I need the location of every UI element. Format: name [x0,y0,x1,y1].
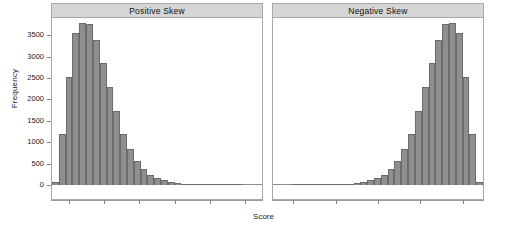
y-tick-label: 3500 [0,30,44,40]
bar-series-negative-skew [273,18,483,185]
histogram-bar [93,40,100,185]
y-tick-label: 3000 [0,52,44,62]
histogram-bar [313,184,320,185]
x-tick-mark [175,200,176,204]
histogram-bar [236,184,243,185]
histogram-bar [120,134,127,185]
histogram-bar [202,184,209,185]
y-tick-label: 2000 [0,94,44,104]
histogram-bar [168,182,175,185]
histogram-bar [154,178,161,185]
x-axis-positive-skew [51,200,263,208]
histogram-bar [381,175,388,185]
histogram-bar [72,33,79,185]
histogram-bar [415,111,422,185]
histogram-bar [320,184,327,185]
strip-title: Positive Skew [129,6,185,16]
y-tick-label: 2500 [0,73,44,83]
histogram-bar [161,180,168,185]
histogram-bar [388,169,395,185]
x-tick-mark [420,200,421,204]
histogram-bar [408,134,415,185]
histogram-bar [374,178,381,185]
histogram-bar [326,184,333,185]
histogram-bar [449,23,456,185]
histogram-bar [394,161,401,185]
x-tick-mark [210,200,211,204]
histogram-bar [340,184,347,185]
x-axis-line [51,200,263,201]
y-tick-label: 1500 [0,116,44,126]
histogram-bar [134,161,141,185]
x-axis-label: Score [0,212,527,221]
x-tick-mark [69,200,70,204]
histogram-bar [306,184,313,185]
histogram-bar [333,184,340,185]
histogram-bar [367,180,374,185]
histogram-bar [292,184,299,185]
histogram-bar [66,77,73,185]
histogram-bar [113,111,120,185]
x-tick-mark [104,200,105,204]
histogram-bar [442,24,449,185]
x-tick-mark [336,200,337,204]
x-tick-mark [293,200,294,204]
histogram-bar [463,77,470,185]
y-tick-label: 1000 [0,137,44,147]
histogram-bar [456,33,463,185]
x-tick-mark [245,200,246,204]
histogram-figure: Frequency 0500100015002000250030003500 P… [0,0,527,241]
histogram-bar [476,182,483,185]
histogram-bar [175,183,182,185]
x-tick-mark [463,200,464,204]
histogram-bar [299,184,306,185]
histogram-bar [86,24,93,185]
histogram-bar [188,184,195,185]
histogram-bar [107,87,114,185]
histogram-bar [222,184,229,185]
histogram-bar [147,175,154,185]
plot-area-negative-skew [273,18,483,199]
strip-title: Negative Skew [348,6,407,16]
histogram-bar [401,149,408,185]
strip-header-negative-skew: Negative Skew [273,4,483,18]
plot-area-positive-skew [52,18,262,199]
histogram-bar [100,63,107,185]
y-tick-label: 0 [0,180,44,190]
histogram-bar [181,184,188,185]
histogram-bar [127,149,134,185]
histogram-bar [59,134,66,185]
histogram-bar [209,184,216,185]
histogram-bar [435,40,442,185]
histogram-bar [141,169,148,185]
panel-positive-skew: Positive Skew [51,3,263,200]
histogram-bar [216,184,223,185]
strip-header-positive-skew: Positive Skew [52,4,262,18]
x-tick-mark [139,200,140,204]
histogram-bar [422,87,429,185]
x-tick-mark [378,200,379,204]
histogram-bar [195,184,202,185]
y-tick-label: 500 [0,159,44,169]
panel-negative-skew: Negative Skew [272,3,484,200]
bar-series-positive-skew [52,18,262,185]
histogram-bar [229,184,236,185]
histogram-bar [360,182,367,185]
histogram-bar [429,63,436,185]
histogram-bar [52,182,59,185]
histogram-bar [469,134,476,185]
x-axis-negative-skew [272,200,484,208]
histogram-bar [354,183,361,185]
histogram-bar [347,184,354,185]
histogram-bar [79,23,86,185]
